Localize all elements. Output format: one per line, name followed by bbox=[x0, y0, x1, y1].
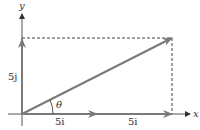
label-5i-first: 5i bbox=[55, 116, 65, 127]
vector-resultant bbox=[22, 38, 172, 114]
y-axis-label: y bbox=[18, 0, 25, 11]
angle-label: θ bbox=[56, 99, 62, 110]
vector-diagram: y x 5j 5i 5i θ bbox=[0, 0, 200, 130]
x-axis-label: x bbox=[193, 108, 199, 119]
label-5j: 5j bbox=[8, 71, 17, 82]
label-5i-second: 5i bbox=[128, 116, 138, 127]
angle-arc bbox=[50, 100, 53, 114]
